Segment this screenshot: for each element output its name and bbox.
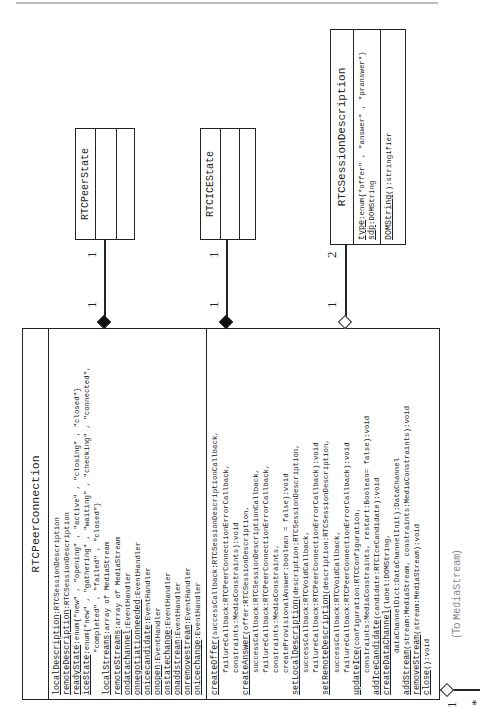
member-name: onstatechange — [163, 630, 173, 695]
member-type: :EventHandler — [194, 582, 202, 640]
member-type: :EventHandler — [164, 572, 172, 630]
member-type: :EventHandler — [134, 542, 142, 600]
class-member: localDescription:RTCSessionDescription — [52, 333, 62, 695]
class-member: readyState:enum{"new" , "opening" , "act… — [72, 333, 82, 695]
attributes-section — [96, 129, 117, 239]
association-note-mediastream: (To MediaStream) — [450, 550, 463, 638]
class-member: iceState:enum{"new" , "gathering" , "wai… — [82, 333, 92, 695]
member-type: :DOMString — [368, 181, 376, 225]
multiplicity-label: 2 — [324, 252, 340, 259]
member-type: :EventHandler — [184, 567, 192, 625]
class-member: failureCallback:RTCPeerConnectionErrorCa… — [311, 333, 321, 695]
multiplicity-label: 1 — [84, 302, 100, 309]
class-member: onopen:EventHandler — [153, 333, 163, 695]
member-name: onicechange — [193, 640, 203, 695]
member-name: ondatachannel — [123, 630, 133, 695]
class-member: createOffer(successCallback:RTCSessionDe… — [210, 333, 220, 695]
class-member: failureCallback:RTCPeerConnectionErrorCa… — [221, 333, 231, 695]
member-type: failureCallback:RTCPeerConnectionErrorCa… — [343, 442, 351, 673]
class-member: createDataChannel(label:DOMString, — [382, 333, 392, 695]
member-type: (description:RTCSessionDescription, — [322, 439, 330, 594]
class-member: failureCallback:RTCPeerConnectionErrorCa… — [261, 333, 271, 695]
member-type: :enum{"new" , "opening" , "active" , "cl… — [73, 387, 81, 644]
class-rtcsessiondescription: RTCSessionDescription type:enum{"offer" … — [330, 29, 406, 245]
member-type: successCallback:RTCVoidCallback, — [302, 531, 310, 673]
member-name: iceState — [82, 655, 92, 695]
member-type: failureCallback:RTCPeerConnectionErrorCa… — [312, 442, 320, 673]
member-type: constraints:MediaConstraints):void — [232, 522, 240, 673]
member-name: onremovestream — [183, 625, 193, 695]
class-member: createProvisionalAnswer:boolean = false)… — [281, 333, 291, 695]
class-member: constraints:MediaConstraints, — [271, 333, 281, 695]
member-type: (description:RTCSessionDescription, — [292, 444, 300, 599]
class-member: successCallback:RTCVoidCallback, — [301, 333, 311, 695]
member-type: :enum{"new" , "gathering" , "waiting" , … — [83, 366, 91, 654]
note-suffix: ) — [450, 550, 462, 554]
member-type: createProvisionalAnswer:boolean = false)… — [282, 473, 290, 673]
member-name: setLocalDescription — [291, 600, 301, 696]
multiplicity-label: 1 — [206, 302, 222, 309]
member-type: :EventHandler — [144, 567, 152, 625]
class-member: constraints:MediaConstraints, restart:Bo… — [362, 333, 372, 695]
member-type: constraints:MediaConstraints, — [272, 544, 280, 673]
multiplicity-label: 1 — [324, 302, 340, 309]
class-member: setRemoteDescription(description:RTCSess… — [321, 333, 331, 695]
member-name: createDataChannel — [382, 610, 392, 695]
class-member: failureCallback:RTCPeerConnectionErrorCa… — [342, 333, 352, 695]
class-member: onicechange:EventHandler — [193, 333, 203, 695]
class-member: addStream(stream:MediaStream, constraint… — [402, 333, 412, 695]
class-member: "completed" , "failed" , "closed"} — [92, 333, 102, 695]
member-name: readyState — [72, 645, 82, 695]
class-member: dataChannelDict:DataChannelInit):DataCha… — [392, 333, 402, 695]
class-rtcpeerconnection: RTCPeerConnection localDescription:RTCSe… — [22, 328, 440, 700]
member-type: (offer:RTCSessionDescription, — [242, 506, 250, 635]
class-member: successCallback:RTCVoidCallback, — [332, 333, 342, 695]
class-member: updateIce(configuration:RTCConfiguration… — [352, 333, 362, 695]
member-type: :EventHandler — [174, 582, 182, 640]
member-type: successCallback:RTCVoidCallback, — [333, 531, 341, 673]
class-member: remoteDescription:RTCSessionDescription — [62, 333, 72, 695]
member-type: constraints:MediaConstraints, restart:Bo… — [363, 416, 371, 673]
class-member: onicecandidate:EventHandler — [143, 333, 153, 695]
member-name: localStreams — [102, 635, 112, 695]
member-type: :array of MediaStream — [103, 542, 111, 635]
class-name: RTCSessionDescription — [331, 30, 354, 244]
member-type: (candidate:RTCIceCandidate):void — [373, 478, 381, 620]
class-name: RTCICEState — [201, 129, 221, 239]
multiplicity-label: 1 — [206, 252, 222, 259]
member-type: successCallback:RTCSessionDescriptionCal… — [252, 469, 260, 673]
member-type: ():void — [423, 639, 431, 670]
member-type: dataChannelDict:DataChannelInit):DataCha… — [393, 458, 401, 653]
member-name: DOMString — [384, 195, 394, 240]
member-type: (label:DOMString, — [383, 534, 391, 609]
multiplicity-label: * — [468, 700, 484, 707]
member-name: addStream — [402, 650, 412, 695]
class-member: localStreams:array of MediaStream — [102, 333, 112, 695]
member-type: (successCallback:RTCSessionDescriptionCa… — [211, 431, 219, 639]
note-prefix: (To — [450, 620, 462, 638]
member-name: type — [357, 220, 367, 240]
class-name: RTCPeerState — [76, 129, 96, 239]
class-member: remoteStreams:array of MediaStream — [113, 333, 123, 695]
member-name: remoteStreams — [113, 630, 123, 695]
composition-diamond-icon — [219, 315, 233, 329]
member-name: onopen — [153, 665, 163, 695]
member-type: failureCallback:RTCPeerConnectionErrorCa… — [222, 465, 230, 673]
composition-diamond-icon — [97, 315, 111, 329]
class-member: setLocalDescription(description:RTCSessi… — [291, 333, 301, 695]
member-type: failureCallback:RTCPeerConnectionErrorCa… — [262, 465, 270, 673]
member-name: sdp — [367, 225, 377, 240]
class-member: DOMString():stringifier — [384, 34, 394, 240]
methods-section: createOffer(successCallback:RTCSessionDe… — [207, 329, 435, 699]
member-name: createAnswer — [241, 635, 251, 695]
class-name: RTCPeerConnection — [23, 329, 49, 699]
note-target: MediaStream — [452, 554, 463, 620]
methods-section — [240, 129, 258, 239]
member-type: (stream:MediaStream):void — [413, 524, 421, 635]
attributes-section: type:enum{"offer" , "answer" , "pranswer… — [354, 30, 381, 244]
member-name: onaddstream — [173, 640, 183, 695]
class-member: ondatachannel:EventHandler — [123, 333, 133, 695]
member-name: updateIce — [352, 650, 362, 695]
class-rtcicestate: RTCICEState — [200, 128, 256, 240]
